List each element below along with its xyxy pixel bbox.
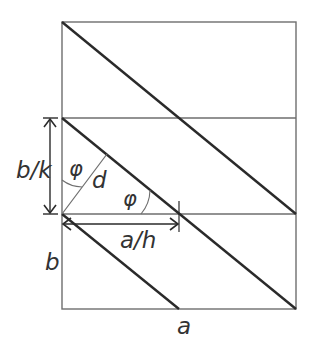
label-d: d: [92, 167, 107, 193]
label-b-over-k: b/k: [16, 157, 53, 183]
label-phi-top: φ: [69, 157, 83, 181]
label-a: a: [177, 313, 191, 339]
label-a-over-h: a/h: [120, 227, 156, 253]
label-b: b: [45, 249, 60, 275]
outer-rectangle: [62, 22, 296, 309]
angle-arc-right: [141, 190, 150, 214]
label-phi-right: φ: [123, 187, 137, 211]
strip-geometry-diagram: b/k φ d φ a/h b a: [0, 0, 311, 358]
angle-arc-top: [62, 180, 82, 187]
